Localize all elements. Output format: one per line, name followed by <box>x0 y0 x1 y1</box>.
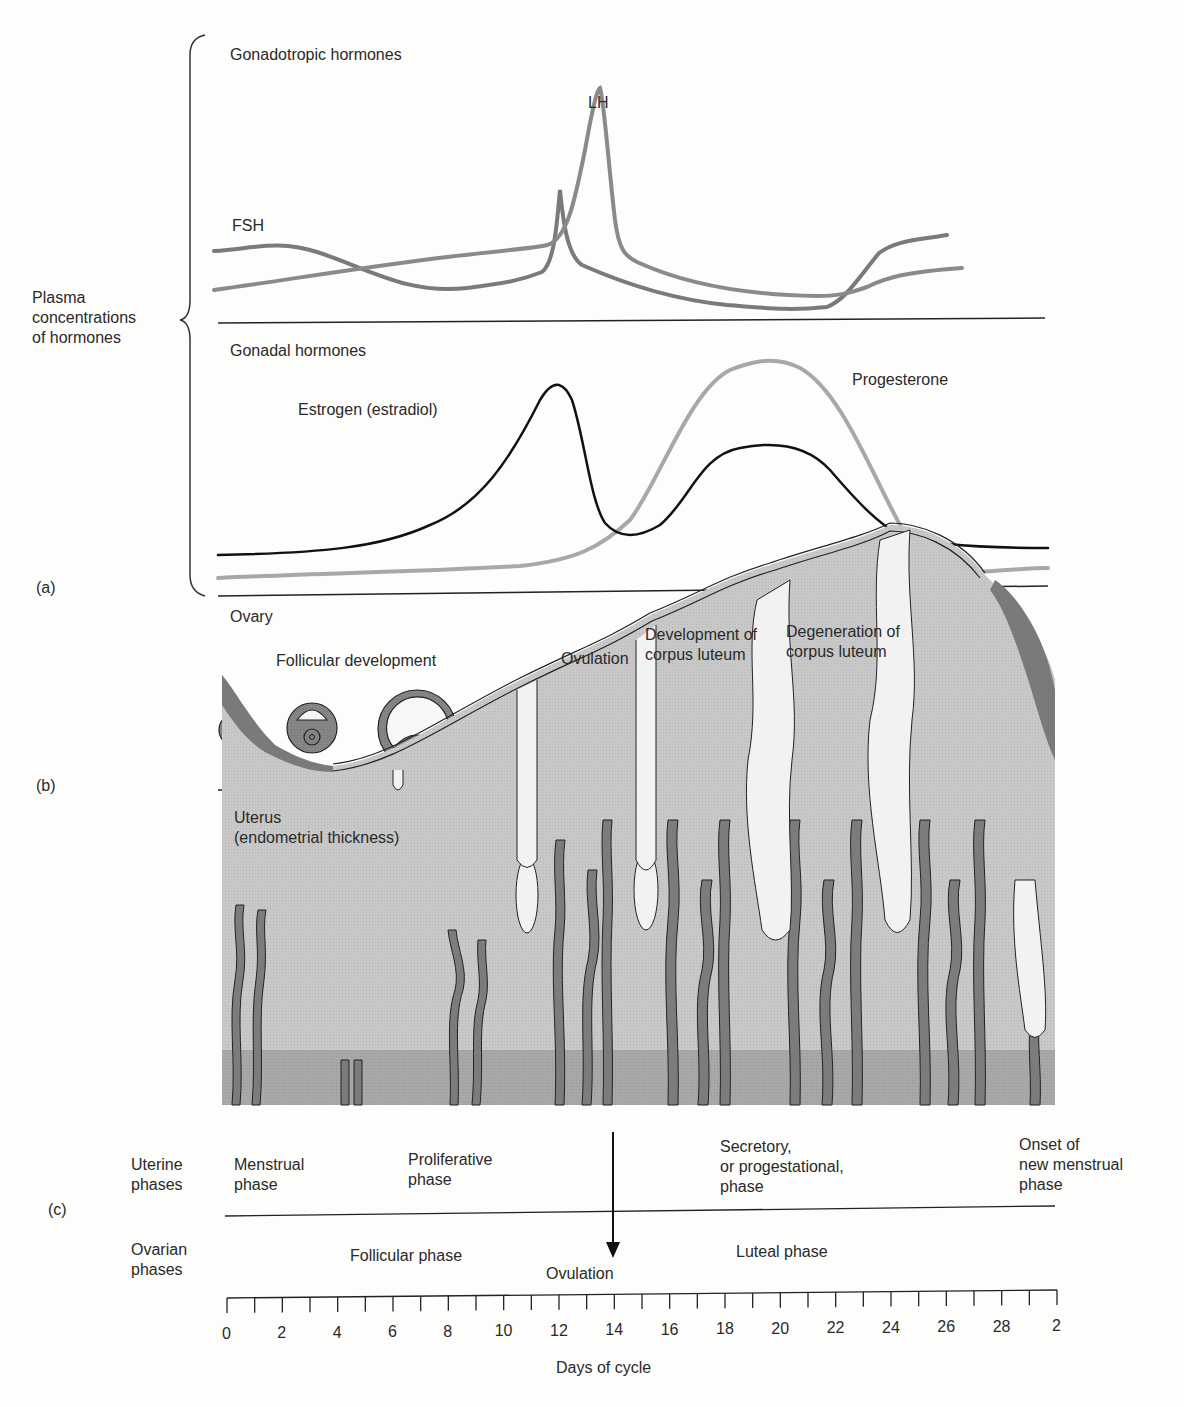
phase-line: phase <box>1019 1175 1123 1195</box>
axis-tick-label: 2 <box>1052 1316 1061 1336</box>
axis-tick-label: 14 <box>605 1320 623 1340</box>
axis-tick-label: 12 <box>550 1321 568 1341</box>
follicular-phase: Follicular phase <box>350 1246 462 1266</box>
axis-title: Days of cycle <box>556 1358 651 1378</box>
brace <box>180 35 205 596</box>
label-line: phases <box>131 1260 187 1280</box>
phase-line: Onset of <box>1019 1135 1123 1155</box>
phase-line: phase <box>720 1177 844 1197</box>
uterus-title: Uterus (endometrial thickness) <box>234 808 399 848</box>
axis-tick-label: 0 <box>222 1324 231 1344</box>
uterine-phases-label: Uterine phases <box>131 1155 183 1195</box>
stage-ovulation: Ovulation <box>561 649 629 669</box>
axis-tick-label: 4 <box>333 1323 342 1343</box>
axis-tick-label: 10 <box>495 1321 513 1341</box>
lh-curve <box>214 88 962 296</box>
uterus-title-line2: (endometrial thickness) <box>234 828 399 848</box>
stage-corpus-luteum-degeneration: Degeneration of corpus luteum <box>786 622 900 662</box>
gonadotropic-title: Gonadotropic hormones <box>230 45 402 65</box>
label-line: Uterine <box>131 1155 183 1175</box>
proliferative-phase: Proliferative phase <box>408 1150 492 1190</box>
panel-a-letter: (a) <box>36 578 56 598</box>
axis-tick-label: 8 <box>443 1322 452 1342</box>
gonadotropic-baseline <box>218 318 1045 323</box>
estrogen-label: Estrogen (estradiol) <box>298 400 438 420</box>
gonadal-title: Gonadal hormones <box>230 341 366 361</box>
phase-line: Proliferative <box>408 1150 492 1170</box>
phase-line: new menstrual <box>1019 1155 1123 1175</box>
axis-tick-label: 22 <box>827 1318 845 1338</box>
follicle-secondary <box>287 703 337 753</box>
phase-line: phase <box>234 1175 304 1195</box>
axis-tick-label: 2 <box>277 1323 286 1343</box>
panel-b-letter: (b) <box>36 776 56 796</box>
menstrual-cycle-diagram <box>0 0 1184 1407</box>
axis-tick-label: 6 <box>388 1322 397 1342</box>
ovarian-phases-label: Ovarian phases <box>131 1240 187 1280</box>
stage-line: corpus luteum <box>645 645 757 665</box>
panel-c-letter: (c) <box>48 1200 67 1220</box>
label-line: Ovarian <box>131 1240 187 1260</box>
stage-line: Degeneration of <box>786 622 900 642</box>
phase-line: Secretory, <box>720 1137 844 1157</box>
phase-line: or progestational, <box>720 1157 844 1177</box>
progesterone-label: Progesterone <box>852 370 948 390</box>
axis-tick-label: 26 <box>937 1317 955 1337</box>
phase-line: phase <box>408 1170 492 1190</box>
onset-new-menstrual-phase: Onset of new menstrual phase <box>1019 1135 1123 1195</box>
y-label-line1: Plasma <box>32 288 136 308</box>
menstrual-phase: Menstrual phase <box>234 1155 304 1195</box>
y-label-line2: concentrations <box>32 308 136 328</box>
axis-tick-label: 24 <box>882 1318 900 1338</box>
axis-tick-label: 20 <box>771 1319 789 1339</box>
uterine-phase-divider <box>225 1206 1055 1216</box>
ovulation-label: Ovulation <box>546 1264 614 1284</box>
uterus-title-line1: Uterus <box>234 808 399 828</box>
ovulation-arrow-head <box>606 1242 620 1258</box>
axis-tick-label: 18 <box>716 1319 734 1339</box>
ovary-title: Ovary <box>230 607 273 627</box>
lh-label: LH <box>588 93 608 113</box>
y-axis-label: Plasma concentrations of hormones <box>32 288 136 348</box>
stage-corpus-luteum-development: Development of corpus luteum <box>645 625 757 665</box>
luteal-phase: Luteal phase <box>736 1242 828 1262</box>
secretory-phase: Secretory, or progestational, phase <box>720 1137 844 1197</box>
stage-line: corpus luteum <box>786 642 900 662</box>
label-line: phases <box>131 1175 183 1195</box>
fsh-curve <box>214 190 947 309</box>
axis-tick-label: 28 <box>993 1317 1011 1337</box>
stage-follicular-development: Follicular development <box>276 651 436 671</box>
stage-line: Development of <box>645 625 757 645</box>
y-label-line3: of hormones <box>32 328 136 348</box>
axis-tick-label: 16 <box>661 1320 679 1340</box>
fsh-label: FSH <box>232 216 264 236</box>
phase-line: Menstrual <box>234 1155 304 1175</box>
